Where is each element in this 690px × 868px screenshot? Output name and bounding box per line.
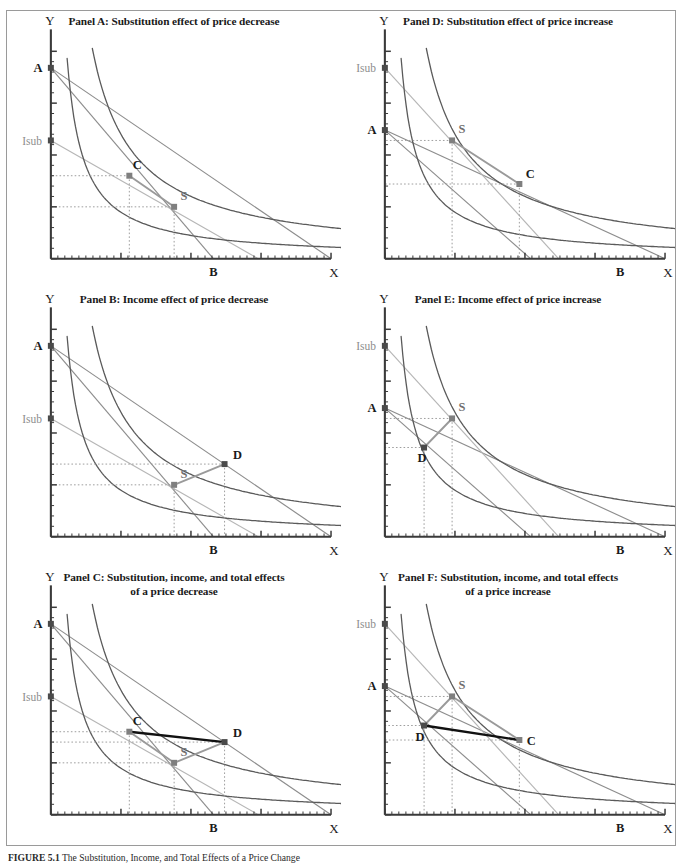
panel-a: Panel A: Substitution effect of price de…: [7, 11, 341, 289]
svg-text:D: D: [233, 448, 242, 462]
svg-text:A: A: [367, 123, 376, 137]
svg-text:Isub: Isub: [22, 135, 42, 147]
svg-text:B: B: [616, 543, 624, 557]
svg-text:C: C: [527, 734, 536, 748]
svg-text:A: A: [367, 401, 376, 415]
svg-text:Isub: Isub: [356, 618, 376, 630]
panel-c: Panel C: Substitution, income, and total…: [7, 567, 341, 845]
svg-text:Y: Y: [379, 13, 389, 28]
svg-text:Isub: Isub: [22, 691, 42, 703]
svg-text:Isub: Isub: [356, 62, 376, 74]
svg-text:C: C: [526, 167, 535, 181]
panel-b-plot: IsubASDBYX: [7, 289, 341, 567]
svg-text:A: A: [33, 61, 42, 75]
svg-text:B: B: [616, 265, 624, 279]
svg-text:C: C: [133, 714, 142, 728]
svg-text:S: S: [181, 745, 188, 759]
svg-text:A: A: [33, 617, 42, 631]
svg-text:X: X: [663, 265, 673, 280]
svg-text:D: D: [416, 730, 425, 744]
panel-e-plot: IsubASDBYX: [341, 289, 675, 567]
svg-text:S: S: [459, 678, 466, 692]
panel-a-plot: IsubACSBYX: [7, 11, 341, 289]
svg-text:S: S: [459, 122, 466, 136]
panel-f: Panel F: Substitution, income, and total…: [341, 567, 675, 845]
svg-text:C: C: [133, 158, 142, 172]
figure-caption-text: The Substitution, Income, and Total Effe…: [62, 852, 300, 863]
svg-text:S: S: [181, 467, 188, 481]
svg-text:X: X: [663, 543, 673, 558]
svg-text:A: A: [367, 679, 376, 693]
panel-b: Panel B: Income effect of price decrease…: [7, 289, 341, 567]
panel-c-plot: IsubACSDBYX: [7, 567, 341, 845]
figure-caption: FIGURE 5.1 The Substitution, Income, and…: [8, 852, 668, 863]
svg-text:B: B: [209, 821, 217, 835]
panel-d-plot: IsubASCBYX: [341, 11, 675, 289]
svg-text:B: B: [209, 543, 217, 557]
svg-text:D: D: [418, 451, 427, 465]
svg-text:Y: Y: [45, 13, 55, 28]
figure-frame: Panel A: Substitution effect of price de…: [6, 10, 676, 846]
svg-text:X: X: [329, 265, 339, 280]
svg-text:Y: Y: [45, 291, 55, 306]
svg-text:D: D: [233, 726, 242, 740]
panel-e: Panel E: Income effect of price increase…: [341, 289, 675, 567]
svg-text:Isub: Isub: [22, 413, 42, 425]
figure-caption-label: FIGURE 5.1: [8, 852, 60, 863]
svg-text:Y: Y: [379, 291, 389, 306]
svg-text:S: S: [181, 189, 188, 203]
svg-text:A: A: [33, 339, 42, 353]
svg-text:X: X: [663, 821, 673, 836]
svg-text:B: B: [616, 821, 624, 835]
svg-text:Isub: Isub: [356, 340, 376, 352]
svg-text:X: X: [329, 543, 339, 558]
svg-text:X: X: [329, 821, 339, 836]
panel-grid: Panel A: Substitution effect of price de…: [7, 11, 675, 845]
svg-text:B: B: [209, 265, 217, 279]
svg-text:Y: Y: [45, 569, 55, 584]
svg-text:Y: Y: [379, 569, 389, 584]
panel-f-plot: IsubASDCBYX: [341, 567, 675, 845]
panel-d: Panel D: Substitution effect of price in…: [341, 11, 675, 289]
svg-text:S: S: [459, 400, 466, 414]
